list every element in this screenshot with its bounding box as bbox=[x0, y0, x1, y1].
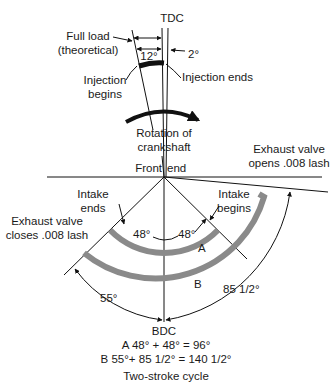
deg48-right-arrow bbox=[195, 219, 206, 232]
deg55-label: 55° bbox=[100, 292, 117, 304]
intake-ends-label: Intake bbox=[77, 188, 108, 200]
injection-ends-leader bbox=[166, 64, 181, 78]
rotation-label-2: crankshaft bbox=[137, 141, 191, 153]
exhaust-closes-label-2: closes .008 lash bbox=[6, 229, 88, 241]
deg85-label: 85 1/2° bbox=[223, 283, 260, 295]
intake-ends-label-2: ends bbox=[81, 202, 106, 214]
injection-begins-leader bbox=[126, 66, 137, 80]
tdc-label: TDC bbox=[160, 12, 184, 24]
exhaust-opens-label-2: opens .008 lash bbox=[248, 157, 329, 169]
full-load-arrow bbox=[113, 37, 132, 41]
tdc-line-2deg bbox=[166, 28, 168, 177]
deg2-arrow bbox=[171, 50, 185, 51]
deg48-right-arc bbox=[164, 236, 178, 240]
exhaust-opens-label: Exhaust valve bbox=[253, 143, 325, 155]
full-load-label-2: (theoretical) bbox=[58, 44, 119, 56]
injection-begins-label: Injection bbox=[84, 74, 127, 86]
end-label: end bbox=[167, 162, 186, 174]
front-label: Front bbox=[135, 162, 163, 174]
formula-b: B 55°+ 85 1/2° = 140 1/2° bbox=[101, 353, 232, 365]
full-load-label: Full load bbox=[66, 30, 109, 42]
bdc-label: BDC bbox=[152, 325, 176, 337]
rotation-arrow-icon bbox=[126, 111, 198, 122]
deg2-label: 2° bbox=[188, 48, 199, 60]
rotation-label: Rotation of bbox=[136, 127, 192, 139]
injection-begins-label-2: begins bbox=[88, 88, 122, 100]
arc-b-label: B bbox=[194, 278, 202, 290]
deg48-left-arc bbox=[153, 237, 164, 240]
formula-a: A 48° + 48° = 96° bbox=[122, 339, 211, 351]
deg12-label: 12° bbox=[140, 50, 157, 62]
deg48-right-label: 48° bbox=[178, 228, 195, 240]
injection-arc bbox=[139, 63, 164, 66]
injection-ends-label: Injection ends bbox=[182, 71, 253, 83]
caption: Two-stroke cycle bbox=[123, 370, 209, 382]
deg48-left-label: 48° bbox=[133, 228, 150, 240]
arc-a-label: A bbox=[198, 242, 206, 254]
intake-begins-label: Intake bbox=[218, 188, 249, 200]
exhaust-closes-label: Exhaust valve bbox=[11, 215, 83, 227]
tdc-line bbox=[162, 28, 164, 177]
intake-begins-label-2: begins bbox=[217, 202, 251, 214]
valve-timing-diagram: Two-stroke cycle TDC Full load (theoreti… bbox=[0, 0, 334, 384]
